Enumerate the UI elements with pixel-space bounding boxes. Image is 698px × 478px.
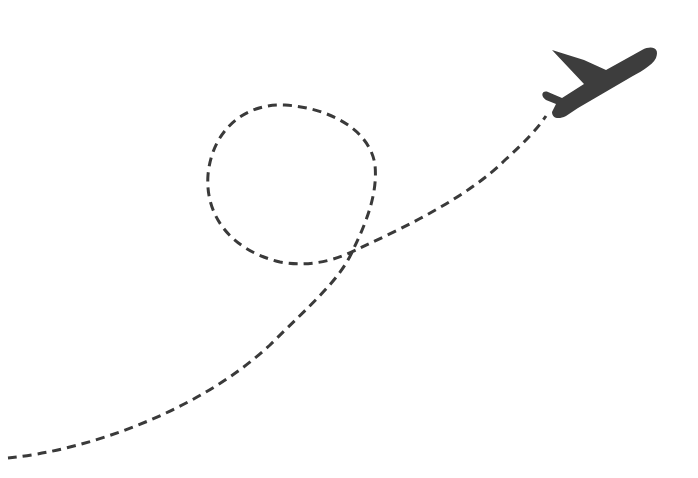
flight-path xyxy=(8,105,546,458)
airplane-icon xyxy=(542,48,657,118)
illustration-canvas xyxy=(0,0,698,478)
